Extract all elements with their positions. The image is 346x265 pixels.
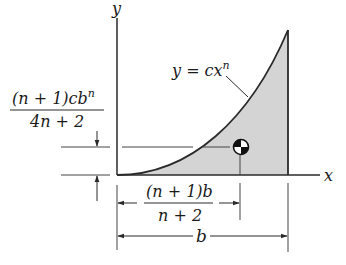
svg-text:(n + 1)b: (n + 1)b (146, 182, 213, 201)
x-axis-label: x (324, 166, 333, 185)
svg-text:4n + 2: 4n + 2 (29, 112, 84, 131)
centroid-diagram: y x y = cxn (n + 1)cbn 4n + 2 (n + 1)b n… (0, 0, 346, 265)
b-label: b (196, 226, 207, 246)
x-bar-label: (n + 1)b n + 2 (144, 182, 213, 225)
equation-leader-line (226, 76, 248, 97)
svg-text:(n + 1)cbn: (n + 1)cbn (12, 87, 95, 108)
shaded-area (117, 30, 288, 175)
centroid-icon (234, 140, 249, 155)
y-bar-label: (n + 1)cbn 4n + 2 (10, 87, 104, 131)
curve-equation: y = cxn (171, 59, 230, 80)
svg-text:n + 2: n + 2 (158, 206, 202, 225)
y-axis-label: y (111, 0, 122, 18)
